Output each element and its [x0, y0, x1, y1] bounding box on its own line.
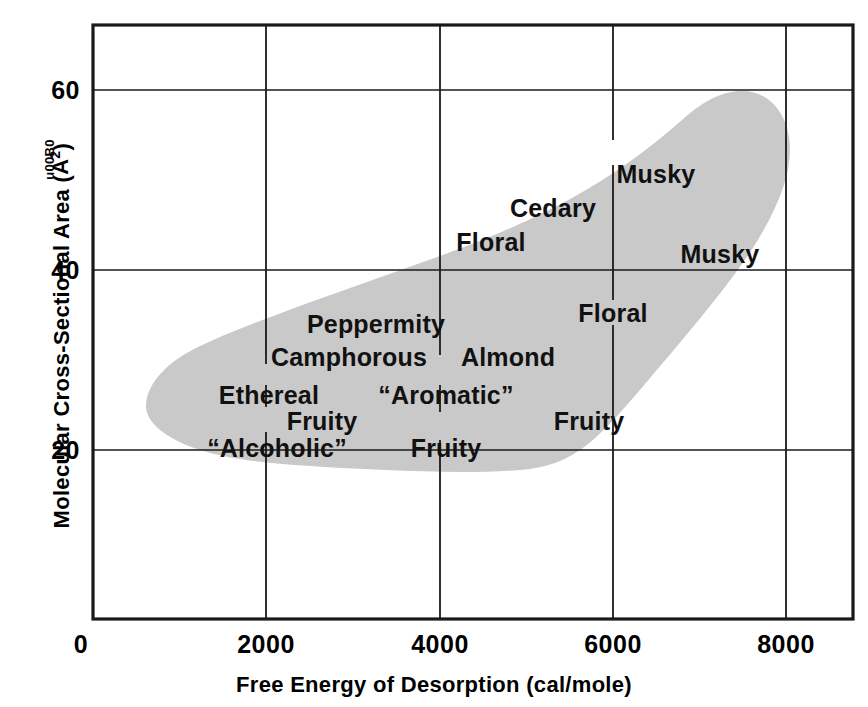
- xtick-label-6000: 6000: [584, 630, 642, 659]
- shaded-odor-region: [146, 91, 790, 472]
- x-axis-title: Free Energy of Desorption (cal/mole): [0, 672, 868, 698]
- odor-label-almond: Almond: [461, 343, 555, 372]
- odor-label-floral-lower: Floral: [578, 299, 647, 328]
- odor-chart-figure: 60 40 20 0 2000 4000 6000 8000 Free Ener…: [0, 0, 868, 707]
- odor-label-ethereal: Ethereal: [219, 381, 319, 410]
- xtick-label-2000: 2000: [237, 630, 295, 659]
- xtick-label-4000: 4000: [411, 630, 469, 659]
- odor-label-peppermity: Peppermity: [307, 310, 445, 339]
- plot-area: [0, 0, 868, 707]
- odor-label-aromatic: “Aromatic”: [378, 381, 513, 410]
- odor-label-fruity-left: Fruity: [287, 407, 358, 436]
- odor-label-cedary: Cedary: [510, 194, 596, 223]
- y-axis-title-prefix: Molecular Cross-Sectional Area (: [49, 175, 74, 529]
- xtick-label-8000: 8000: [757, 630, 815, 659]
- angstrom-symbol: A: [49, 159, 75, 175]
- odor-label-fruity-center: Fruity: [411, 434, 482, 463]
- odor-label-fruity-right: Fruity: [554, 407, 625, 436]
- xtick-label-0: 0: [74, 630, 88, 659]
- odor-label-musky-top: Musky: [617, 160, 696, 189]
- odor-label-alcoholic: “Alcoholic”: [207, 434, 347, 463]
- odor-label-camphorous: Camphorous: [271, 343, 427, 372]
- y-axis-title: Molecular Cross-Sectional Area (A2): [47, 36, 74, 636]
- odor-label-musky-right: Musky: [681, 240, 760, 269]
- odor-label-floral-upper: Floral: [456, 228, 525, 257]
